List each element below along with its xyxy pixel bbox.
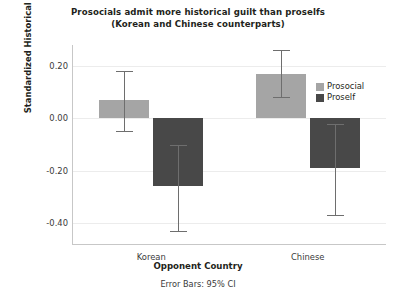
chart-legend: ProsocialProself bbox=[316, 81, 364, 103]
legend-label: Prosocial bbox=[327, 81, 364, 92]
error-bar-stem bbox=[335, 124, 336, 216]
legend-item-proself[interactable]: Proself bbox=[316, 92, 364, 103]
chart-title-block: Prosocials admit more historical guilt t… bbox=[0, 6, 396, 31]
bar-chart: Prosocials admit more historical guilt t… bbox=[0, 0, 396, 298]
error-bar-cap-lower bbox=[116, 131, 133, 132]
error-bar-cap-upper bbox=[327, 124, 344, 125]
error-bar-cap-upper bbox=[273, 50, 290, 51]
error-bar-stem bbox=[281, 50, 282, 97]
plot-area: 0.200.00-0.20-0.40KoreanChinese bbox=[72, 45, 386, 245]
error-bar-cap-lower bbox=[327, 215, 344, 216]
error-bar-cap-upper bbox=[170, 145, 187, 146]
x-axis-title: Opponent Country bbox=[0, 261, 396, 271]
legend-swatch-icon bbox=[316, 94, 324, 102]
gridline bbox=[73, 66, 386, 67]
gridline bbox=[73, 223, 386, 224]
error-bar-footnote: Error Bars: 95% CI bbox=[0, 279, 396, 289]
error-bar-stem bbox=[124, 71, 125, 131]
y-tick-label: 0.00 bbox=[49, 113, 68, 123]
y-tick-label: -0.20 bbox=[46, 166, 68, 176]
chart-subtitle: (Korean and Chinese counterparts) bbox=[0, 18, 396, 31]
y-tick-label: 0.20 bbox=[49, 61, 68, 71]
legend-item-prosocial[interactable]: Prosocial bbox=[316, 81, 364, 92]
error-bar-cap-upper bbox=[116, 71, 133, 72]
gridline bbox=[73, 171, 386, 172]
error-bar-stem bbox=[178, 145, 179, 231]
error-bar-cap-lower bbox=[170, 231, 187, 232]
legend-label: Proself bbox=[327, 92, 355, 103]
legend-swatch-icon bbox=[316, 83, 324, 91]
y-axis-title: Standardized Historical Guilt bbox=[23, 0, 33, 120]
y-tick-label: -0.40 bbox=[46, 218, 68, 228]
error-bar-cap-lower bbox=[273, 97, 290, 98]
chart-title: Prosocials admit more historical guilt t… bbox=[0, 6, 396, 18]
